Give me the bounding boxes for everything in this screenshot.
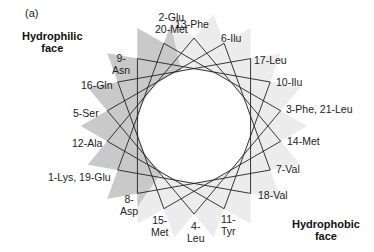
panel-label: (a) xyxy=(25,7,38,19)
residue-label-line: 3-Phe, 21-Leu xyxy=(286,103,353,115)
residue-label-line: 18-Val xyxy=(258,189,288,201)
residue-label: 5-Ser xyxy=(73,107,99,119)
residue-label-line: 8- xyxy=(120,193,138,205)
residue-label-line: 7-Val xyxy=(276,163,300,175)
residue-label: 6-Ilu xyxy=(221,32,241,44)
residue-label: 18-Val xyxy=(258,189,288,201)
hydrophilic-face-line1: Hydrophilic xyxy=(22,30,83,42)
residue-label: 17-Leu xyxy=(254,54,287,66)
residue-label: 4-Leu xyxy=(187,220,205,244)
residue-label-line: Leu xyxy=(187,232,205,244)
residue-label-line: 15- xyxy=(151,214,169,226)
hydrophobic-face-line1: Hydrophobic xyxy=(292,218,360,230)
hydrophilic-face-label: Hydrophilic face xyxy=(22,30,83,54)
residue-label-line: Met xyxy=(151,226,169,238)
residue-label: 15-Met xyxy=(151,214,169,238)
residue-label-line: 10-Ilu xyxy=(276,76,302,88)
hydrophobic-face-label: Hydrophobic face xyxy=(292,218,360,242)
residue-label: 13-Phe xyxy=(175,18,209,30)
residue-label: 14-Met xyxy=(287,135,320,147)
residue-label-line: 11- xyxy=(221,213,236,225)
residue-label: 3-Phe, 21-Leu xyxy=(286,103,353,115)
residue-label-line: Asn xyxy=(112,64,130,76)
residue-label-line: 17-Leu xyxy=(254,54,287,66)
residue-label: 10-Ilu xyxy=(276,76,302,88)
residue-label: 16-Gln xyxy=(81,79,113,91)
residue-label-line: 5-Ser xyxy=(73,107,99,119)
residue-label-line: 9- xyxy=(112,52,130,64)
residue-label: 1-Lys, 19-Glu xyxy=(48,171,111,183)
residue-label: 9-Asn xyxy=(112,52,130,76)
residue-label: 8-Asp xyxy=(120,193,138,217)
hydrophilic-face-line2: face xyxy=(22,42,83,54)
residue-label-line: 13-Phe xyxy=(175,18,209,30)
residue-label-line: Tyr xyxy=(221,225,236,237)
helical-wheel-figure: (a) Hydrophilic face Hydrophobic face 2-… xyxy=(0,0,374,252)
residue-label: 12-Ala xyxy=(72,137,102,149)
residue-label-line: 12-Ala xyxy=(72,137,102,149)
residue-label-line: 14-Met xyxy=(287,135,320,147)
hydrophobic-face-line2: face xyxy=(292,230,360,242)
residue-label-line: 1-Lys, 19-Glu xyxy=(48,171,111,183)
helical-wheel-star xyxy=(81,15,307,238)
residue-label-line: 16-Gln xyxy=(81,79,113,91)
residue-label-line: 4- xyxy=(187,220,205,232)
residue-label: 7-Val xyxy=(276,163,300,175)
residue-label-line: 6-Ilu xyxy=(221,32,241,44)
residue-label-line: Asp xyxy=(120,205,138,217)
residue-label: 11-Tyr xyxy=(221,213,236,237)
